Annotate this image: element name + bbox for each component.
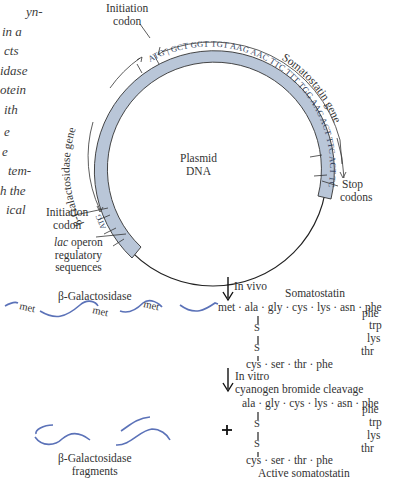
label-line: fragments (58, 465, 132, 478)
label-line: Stop (340, 178, 373, 191)
beta-gal-protein-label: β-Galactosidase (58, 290, 132, 303)
aa-side: trp (369, 416, 382, 428)
plasmid-center-label: Plasmid DNA (180, 152, 217, 177)
aa-side: thr (361, 442, 374, 454)
met-label: met (19, 300, 37, 314)
arrowhead-icon (137, 57, 142, 62)
aa-side: trp (369, 319, 382, 331)
aa-side: phe (362, 307, 379, 319)
operon-text: operon (68, 236, 103, 248)
sulfur-atom: S (254, 322, 260, 333)
met-label: met (143, 298, 161, 312)
active-somatostatin-label: Active somatostatin (258, 467, 350, 479)
initiation-codon-left-label: Initiation codon (46, 206, 88, 231)
aa-side: thr (361, 345, 374, 357)
label-line: sequences (54, 261, 103, 274)
label-line: regulatory (54, 249, 103, 262)
plus-sign (222, 425, 232, 435)
sulfur-atom: S (254, 342, 260, 353)
codon-sequence: ATG | GCT GGT TGT AAG AAC TTC TTT TGG AA… (0, 0, 338, 188)
in-vitro-chain-top: ala · gly · cys · lys · asn · phe (242, 397, 379, 409)
sulfur-atom: S (254, 438, 260, 449)
label-line: codon (46, 219, 88, 232)
lac-italic: lac (54, 236, 68, 248)
beta-gal-fragments-label: β-Galactosidase fragments (58, 452, 132, 477)
label-line: cyanogen bromide cleavage (235, 383, 363, 396)
beta-gal-protein-wave (5, 301, 218, 317)
label-line: codon (106, 15, 148, 28)
label-line: β-Galactosidase (58, 452, 132, 465)
met-label: met (92, 304, 110, 318)
in-vivo-label: In vivo (234, 280, 267, 293)
label-line: In vitro (235, 370, 363, 383)
in-vivo-chain-top: met · ala · gly · cys · lys · asn · phe (218, 301, 382, 313)
somatostatin-label: Somatostatin (285, 287, 345, 300)
beta-gal-fragments-waves (35, 417, 170, 445)
in-vitro-label: In vitro cyanogen bromide cleavage (235, 370, 363, 395)
label-line: lac operon (54, 236, 103, 249)
in-vitro-chain-bottom: cys · ser · thr · phe (246, 454, 333, 466)
aa-side: lys (367, 429, 380, 441)
stop-codons-label: Stop codons (340, 178, 373, 203)
label-line: Initiation (46, 206, 88, 219)
plasmid-label-line: Plasmid (180, 152, 217, 165)
label-line: Initiation (106, 2, 148, 15)
plasmid-label-line: DNA (180, 165, 217, 178)
in-vivo-chain-bottom: cys · ser · thr · phe (246, 358, 333, 370)
sulfur-atom: S (254, 418, 260, 429)
aa-side: lys (367, 332, 380, 344)
label-line: codons (340, 191, 373, 204)
aa-side: phe (362, 403, 379, 415)
lac-operon-label: lac operon regulatory sequences (54, 236, 103, 274)
initiation-codon-top-label: Initiation codon (106, 2, 148, 27)
